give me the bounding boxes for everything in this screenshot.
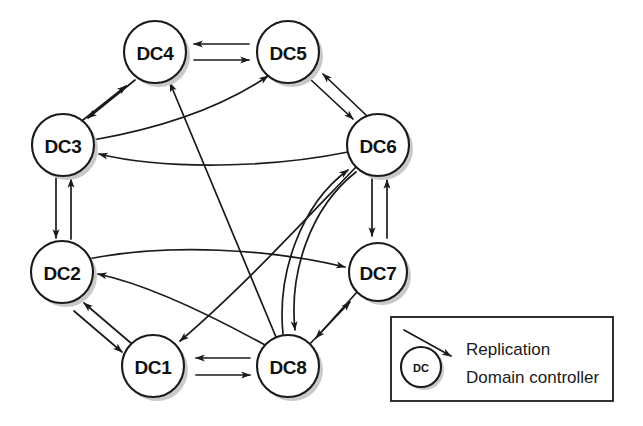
diagram-canvas: DC1 DC2 DC3 DC4 DC5 [0, 0, 643, 426]
edge-dc6-dc7 [372, 179, 387, 238]
node-dc2-label: DC2 [43, 263, 80, 284]
node-dc7[interactable]: DC7 [349, 243, 411, 305]
node-dc5-label: DC5 [269, 43, 307, 64]
replication-topology-diagram: DC1 DC2 DC3 DC4 DC5 [0, 0, 643, 426]
node-dc8[interactable]: DC8 [257, 335, 323, 401]
legend-replication-label: Replication [466, 340, 550, 359]
node-dc8-label: DC8 [269, 357, 306, 378]
node-dc7-label: DC7 [359, 263, 396, 284]
edge-dc7-dc8 [306, 292, 357, 348]
node-dc2[interactable]: DC2 [31, 241, 97, 307]
node-dc4-label: DC4 [136, 43, 174, 64]
edge-dc3-dc4 [78, 80, 135, 124]
edge-dc1-dc8 [196, 358, 250, 375]
edge-dc1-dc2 [74, 303, 132, 352]
edge-dc8-dc6 [282, 170, 348, 334]
edge-dc8-dc4 [170, 83, 276, 337]
legend: Replication DC Domain controller [391, 317, 613, 401]
node-dc4[interactable]: DC4 [124, 21, 190, 87]
node-dc6-label: DC6 [359, 136, 396, 157]
edge-dc6-dc3 [99, 152, 348, 165]
node-dc3-label: DC3 [44, 136, 81, 157]
node-dc1-label: DC1 [134, 357, 172, 378]
edge-dc8-dc2 [98, 274, 265, 345]
edge-dc2-dc7 [88, 250, 345, 267]
legend-dc-circle-label: DC [413, 362, 429, 374]
node-layer: DC1 DC2 DC3 DC4 DC5 [31, 21, 413, 401]
edge-dc4-dc5 [194, 44, 249, 60]
edge-layer [56, 44, 387, 375]
edge-dc2-dc3 [56, 178, 71, 239]
node-dc3[interactable]: DC3 [32, 114, 98, 180]
node-dc6[interactable]: DC6 [347, 114, 413, 180]
edge-dc5-dc6 [310, 74, 366, 119]
legend-domain-controller-label: Domain controller [466, 368, 600, 387]
node-dc1[interactable]: DC1 [122, 335, 188, 401]
